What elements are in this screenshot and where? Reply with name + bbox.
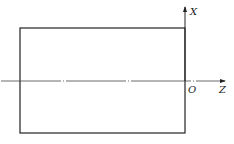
origin-label: O [188,84,196,95]
diagram-canvas: X O Z [0,0,234,144]
x-axis-label: X [189,6,198,17]
z-axis-label: Z [218,84,227,95]
workpiece-rectangle [20,28,185,133]
